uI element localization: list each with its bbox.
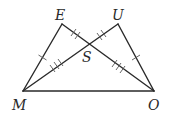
label-E: E xyxy=(54,7,65,23)
label-O: O xyxy=(148,97,160,113)
tick-EM-1 xyxy=(39,55,47,60)
segment-EO xyxy=(62,24,154,91)
geometry-diagram: E U M O S xyxy=(0,0,170,115)
label-M: M xyxy=(11,97,27,113)
tick-ES-2 xyxy=(75,32,80,39)
label-U: U xyxy=(112,7,125,23)
label-S: S xyxy=(82,49,92,65)
tick-UO-1 xyxy=(132,55,140,60)
tick-ES-1 xyxy=(71,29,76,36)
